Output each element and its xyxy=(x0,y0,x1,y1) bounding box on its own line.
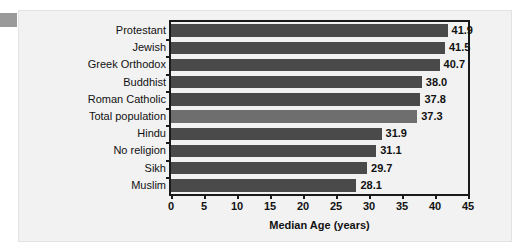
bar xyxy=(171,162,367,174)
x-axis-tick xyxy=(171,194,173,199)
x-axis-tick xyxy=(402,194,404,199)
x-axis-tick xyxy=(303,194,305,199)
bar xyxy=(171,59,440,71)
bar-row: Jewish41.5 xyxy=(171,39,468,56)
category-label: Jewish xyxy=(132,39,166,56)
y-axis-tick xyxy=(166,160,171,162)
y-axis-tick xyxy=(166,39,171,41)
x-axis-tick-label: 40 xyxy=(429,200,441,212)
y-axis-tick xyxy=(166,91,171,93)
bar-row: Muslim28.1 xyxy=(171,177,468,194)
category-label: Hindu xyxy=(137,125,166,142)
category-label: Buddhist xyxy=(123,74,166,91)
bar-row: Protestant41.9 xyxy=(171,22,468,39)
y-axis-tick xyxy=(166,108,171,110)
category-label: Sikh xyxy=(145,160,166,177)
category-label: No religion xyxy=(113,142,166,159)
value-label: 41.5 xyxy=(449,39,470,56)
y-axis-tick xyxy=(166,142,171,144)
bar-row: Greek Orthodox40.7 xyxy=(171,56,468,73)
x-axis-tick xyxy=(270,194,272,199)
x-axis-tick xyxy=(369,194,371,199)
x-axis-tick-label: 25 xyxy=(330,200,342,212)
value-label: 29.7 xyxy=(371,160,392,177)
y-axis-tick xyxy=(166,74,171,76)
x-axis-tick-label: 35 xyxy=(396,200,408,212)
bar xyxy=(171,110,417,122)
bar-row: Hindu31.9 xyxy=(171,125,468,142)
x-axis-tick xyxy=(435,194,437,199)
bar xyxy=(171,145,376,157)
x-axis-tick xyxy=(468,194,470,199)
page-background: Protestant41.9Jewish41.5Greek Orthodox40… xyxy=(0,0,530,248)
x-axis-tick-label: 5 xyxy=(201,200,207,212)
bar-row: Sikh29.7 xyxy=(171,160,468,177)
x-axis-tick xyxy=(237,194,239,199)
bar xyxy=(171,179,356,191)
category-label: Total population xyxy=(89,108,166,125)
category-label: Protestant xyxy=(116,22,166,39)
median-age-bar-chart: Protestant41.9Jewish41.5Greek Orthodox40… xyxy=(0,0,530,248)
bar-row: No religion31.1 xyxy=(171,142,468,159)
bar-row: Total population37.3 xyxy=(171,108,468,125)
value-label: 28.1 xyxy=(360,177,381,194)
x-axis-tick-label: 10 xyxy=(231,200,243,212)
bar-row: Roman Catholic37.8 xyxy=(171,91,468,108)
category-label: Greek Orthodox xyxy=(88,56,166,73)
bar-row: Buddhist38.0 xyxy=(171,74,468,91)
category-label: Roman Catholic xyxy=(88,91,166,108)
value-label: 38.0 xyxy=(426,74,447,91)
y-axis-tick xyxy=(166,56,171,58)
value-label: 40.7 xyxy=(444,56,465,73)
bar xyxy=(171,42,445,54)
category-label: Muslim xyxy=(131,177,166,194)
x-axis-tick-label: 30 xyxy=(363,200,375,212)
bar xyxy=(171,24,448,36)
x-axis-tick xyxy=(204,194,206,199)
plot-frame: Protestant41.9Jewish41.5Greek Orthodox40… xyxy=(169,20,470,196)
value-label: 31.1 xyxy=(380,142,401,159)
value-label: 37.8 xyxy=(424,91,445,108)
x-axis-title: Median Age (years) xyxy=(169,219,470,231)
value-label: 37.3 xyxy=(421,108,442,125)
x-axis-tick-label: 45 xyxy=(462,200,474,212)
bar xyxy=(171,93,420,105)
x-axis-tick-label: 20 xyxy=(297,200,309,212)
value-label: 31.9 xyxy=(386,125,407,142)
bar xyxy=(171,128,382,140)
x-axis-tick-label: 0 xyxy=(168,200,174,212)
x-axis-tick xyxy=(336,194,338,199)
value-label: 41.9 xyxy=(452,22,473,39)
y-axis-tick xyxy=(166,177,171,179)
bar xyxy=(171,76,422,88)
x-axis-tick-label: 15 xyxy=(264,200,276,212)
y-axis-tick xyxy=(166,125,171,127)
